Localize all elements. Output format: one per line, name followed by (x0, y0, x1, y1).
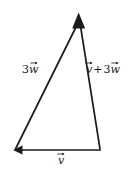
label-v-symbol-with-arrow: v (58, 155, 64, 166)
vector-line-v-plus-3w (81, 26, 101, 149)
label-vw-right-symbol-with-arrow: w (110, 64, 119, 75)
label-vw-left-symbol-with-arrow: v (86, 64, 92, 75)
baseline-arrowhead-icon (13, 146, 23, 155)
label-v-symbol: v (58, 155, 64, 166)
label-3w-coefficient: 3 (22, 63, 29, 76)
label-vw-operator: + (92, 63, 103, 76)
vector-diagram-figure: 3w v+3w v (0, 0, 138, 173)
label-v: v (58, 155, 64, 166)
corner-joint-bottom-right (99, 149, 101, 151)
label-v-plus-3w: v+3w (86, 64, 120, 75)
apex-arrowhead-icon (72, 13, 85, 29)
label-vw-coefficient: 3 (103, 63, 110, 76)
vector-diagram-canvas (0, 0, 138, 173)
vector-line-3w (16, 26, 77, 149)
label-3w-symbol-with-arrow: w (29, 64, 38, 75)
label-vw-left-symbol: v (86, 64, 92, 75)
label-vw-right-symbol: w (110, 64, 119, 75)
label-3w: 3w (22, 64, 38, 75)
label-3w-symbol: w (29, 64, 38, 75)
